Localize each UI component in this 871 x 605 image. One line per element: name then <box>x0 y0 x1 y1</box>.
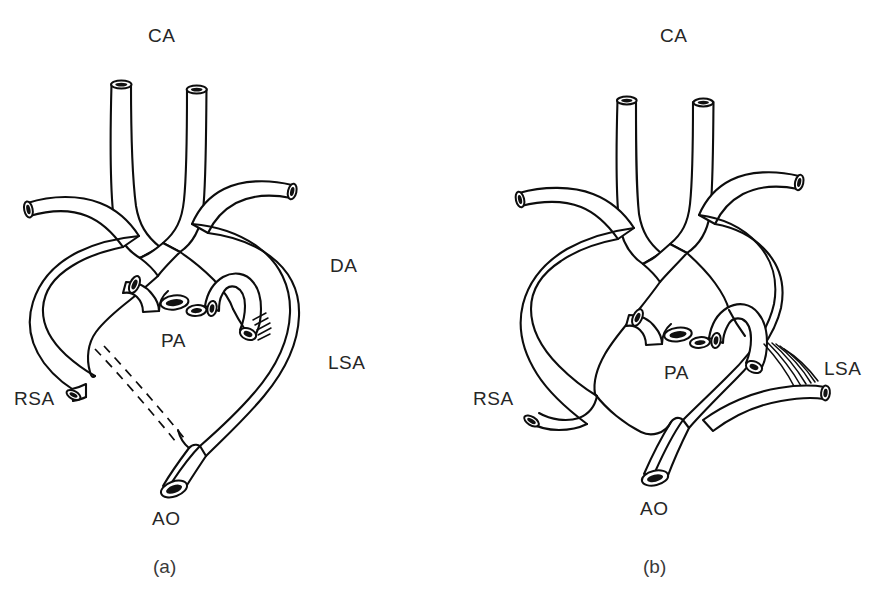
right-aortic-arch <box>521 228 634 424</box>
figure-canvas: CA DA PA LSA RSA AO (a) <box>0 0 871 605</box>
label-ao-a: AO <box>152 508 180 530</box>
right-aortic-arch <box>30 236 139 397</box>
label-da-a: DA <box>330 255 357 277</box>
panel-b: CA PA LSA RSA AO (b) <box>435 0 871 605</box>
left-carotid-artery <box>670 99 714 253</box>
right-pulmonary-artery-cut-end <box>690 336 711 349</box>
ductus-arteriosus-arch <box>709 304 767 367</box>
left-subclavian-upper-branch <box>699 172 805 224</box>
ligamentum-hatching <box>764 343 818 388</box>
right-pulmonary-artery-cut-end <box>186 304 207 317</box>
label-ao-b: AO <box>640 498 668 520</box>
label-lsa-a: LSA <box>328 352 365 374</box>
arch-floor-notch <box>233 309 244 328</box>
label-lsa-b: LSA <box>824 358 861 380</box>
caption-panel-b: (b) <box>643 556 666 578</box>
main-pulmonary-artery-cut-end <box>662 324 693 344</box>
label-ca-a: CA <box>148 25 175 47</box>
panel-a: CA DA PA LSA RSA AO (a) <box>0 0 436 605</box>
label-ca-b: CA <box>660 25 687 47</box>
atretic-segment-dashed <box>95 346 184 442</box>
label-rsa-b: RSA <box>473 388 514 410</box>
caption-panel-a: (a) <box>153 556 176 578</box>
main-pulmonary-artery-cut-end <box>159 291 189 311</box>
panel-a-drawing <box>0 0 436 605</box>
label-pa-b: PA <box>664 362 689 384</box>
arch-aorta-v-junction <box>595 394 671 434</box>
label-pa-a: PA <box>161 330 186 352</box>
right-carotid-artery <box>617 97 661 264</box>
label-rsa-a: RSA <box>14 388 55 410</box>
left-pulmonary-artery <box>626 308 662 345</box>
arch-inner-sweep-left <box>687 253 729 310</box>
ductus-arteriosus-arch <box>205 274 261 334</box>
aorta-cut-end <box>159 477 190 500</box>
